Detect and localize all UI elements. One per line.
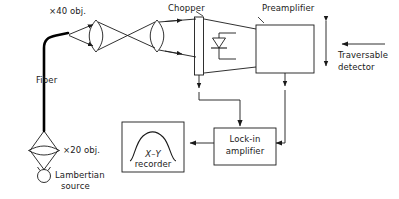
fiber-label: Fiber [36, 75, 57, 86]
lambertian-source-label-line1: Lambertian [55, 170, 105, 181]
preamp-out-to-lockin [276, 90, 285, 143]
lockin-amplifier-label-line2: amplifier [214, 146, 276, 157]
beam-source-lens-left [30, 151, 44, 170]
beam-source-lens-right [44, 151, 58, 170]
preamplifier-box [256, 25, 314, 73]
lambertian-source-label-line2: source [61, 181, 90, 192]
beam-arrow-lower [165, 51, 182, 54]
preamplifier-label: Preamplifier [262, 3, 314, 14]
beam-lens-fiber-left [30, 131, 44, 151]
traversable-detector-label-line2: detector [338, 62, 375, 73]
beam-chopper-to-detector-lower [204, 67, 256, 73]
traversable-detector-label-line1: Traversable [338, 50, 388, 61]
preamplifier-leader [258, 17, 264, 23]
lambertian-source-icon [38, 170, 51, 183]
optical-setup-diagram: ×40 obj. Fiber ×20 obj. Lambertian sourc… [0, 0, 399, 199]
lockin-amplifier-label-line1: Lock-in [214, 134, 276, 145]
xy-recorder-label-line1: X–Y [122, 149, 184, 160]
objective-40x-label: ×40 obj. [49, 6, 86, 17]
beam-chopper-to-detector-upper [204, 19, 256, 29]
beam-lens-fiber-right [44, 131, 58, 151]
chopper-ref-to-lockin [199, 92, 240, 126]
objective-20x-label: ×20 obj. [63, 145, 100, 156]
objective-20x-lens [29, 146, 60, 155]
photodiode-triangle [213, 38, 226, 48]
xy-recorder-label-line2: recorder [122, 159, 184, 170]
chopper-body [195, 17, 204, 75]
chopper-label: Chopper [168, 3, 205, 14]
